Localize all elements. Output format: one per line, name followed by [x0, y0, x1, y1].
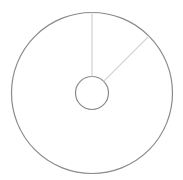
donut-chart — [0, 0, 183, 180]
inner-ring — [76, 77, 109, 110]
slice-boundary-2 — [104, 36, 149, 81]
slice-dividers — [92, 13, 149, 82]
